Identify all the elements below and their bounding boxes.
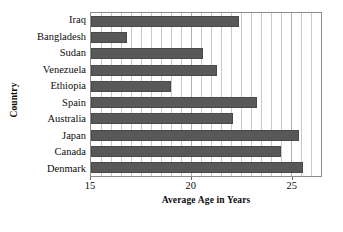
bar-slot <box>91 29 321 45</box>
bar <box>91 65 217 76</box>
bar-slot <box>91 160 321 176</box>
bar-slot <box>91 46 321 62</box>
bar-slot <box>91 143 321 159</box>
plot-area <box>90 12 322 177</box>
bar <box>91 130 299 141</box>
category-axis-labels: IraqBangladeshSudanVenezuelaEthiopiaSpai… <box>14 12 88 177</box>
category-label: Venezuela <box>14 62 88 79</box>
bar-slot <box>91 62 321 78</box>
bar <box>91 16 239 27</box>
bar-slot <box>91 13 321 29</box>
category-label: Australia <box>14 111 88 128</box>
bar-chart: Country IraqBangladeshSudanVenezuelaEthi… <box>0 0 343 232</box>
category-label: Spain <box>14 95 88 112</box>
category-label: Canada <box>14 144 88 161</box>
bar-slot <box>91 94 321 110</box>
category-label: Bangladesh <box>14 29 88 46</box>
category-label: Japan <box>14 128 88 145</box>
bar-slot <box>91 78 321 94</box>
bar <box>91 113 233 124</box>
bar <box>91 81 171 92</box>
category-label: Denmark <box>14 161 88 178</box>
bar-slot <box>91 111 321 127</box>
x-axis: 152025 <box>90 177 322 193</box>
x-tick-label: 15 <box>85 180 96 191</box>
bars-layer <box>91 13 321 176</box>
category-label: Ethiopia <box>14 78 88 95</box>
bar <box>91 97 257 108</box>
bar-slot <box>91 127 321 143</box>
bar <box>91 146 281 157</box>
x-axis-title: Average Age in Years <box>90 195 322 205</box>
category-label: Sudan <box>14 45 88 62</box>
category-label: Iraq <box>14 12 88 29</box>
bar <box>91 48 203 59</box>
bar <box>91 32 127 43</box>
x-tick-label: 25 <box>286 180 297 191</box>
bar <box>91 162 303 173</box>
x-tick-label: 20 <box>186 180 197 191</box>
